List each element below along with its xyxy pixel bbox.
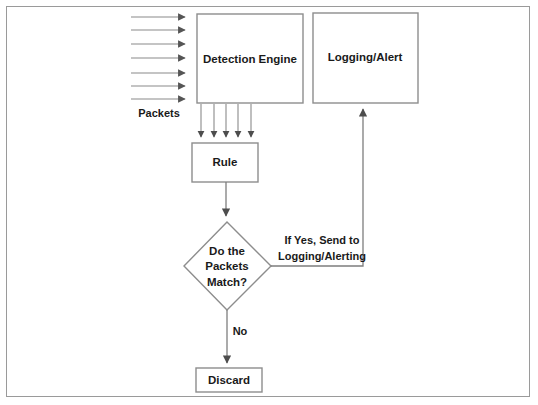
packets-label: Packets [138, 107, 180, 119]
edge-yes-label-line-2: Logging/Alerting [278, 250, 366, 262]
edge-no-label: No [233, 325, 248, 337]
node-discard-label: Discard [208, 374, 250, 386]
node-detection-engine-label: Detection Engine [203, 53, 297, 65]
node-logging-alert-label: Logging/Alert [328, 51, 403, 63]
flowchart-svg: Packets Detection Engine Logging/Alert R… [0, 0, 538, 405]
node-decision-label-line-3: Match? [207, 276, 247, 288]
engine-to-rule-arrows [201, 104, 251, 137]
diagram-canvas: Packets Detection Engine Logging/Alert R… [0, 0, 538, 405]
node-decision-label-line-2: Packets [205, 260, 248, 272]
node-decision-label-line-1: Do the [209, 245, 245, 257]
edge-yes-label-line-1: If Yes, Send to [285, 234, 360, 246]
packets-inflow-arrows [131, 17, 185, 99]
node-rule-label: Rule [213, 156, 238, 168]
